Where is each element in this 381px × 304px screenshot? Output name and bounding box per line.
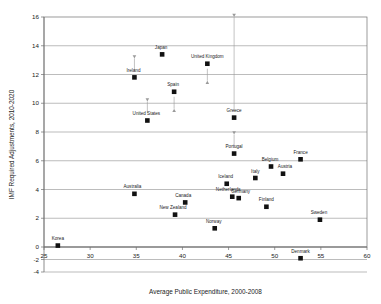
data-point-label: Belgium [262,157,279,162]
data-point[interactable]: Canada [175,193,192,205]
x-tick-label-35: 35 [133,252,140,259]
data-point-marker [264,204,269,209]
y-tick-label-16: 16 [32,13,39,20]
data-point[interactable]: United Kingdom [191,54,224,66]
data-point-label: Portugal [226,144,243,149]
data-point-marker [298,256,303,261]
data-point-marker [224,181,229,186]
data-point-marker [232,115,237,120]
data-point[interactable]: Finland [259,197,275,209]
y-tick-label--2: -2 [33,256,39,263]
chart-canvas: -4-202468101214162530354045505560KoreaAu… [0,0,381,304]
data-point-label: France [293,150,308,155]
data-point-label: Korea [52,236,65,241]
x-tick-label-55: 55 [317,252,324,259]
x-tick-label-60: 60 [364,252,371,259]
data-point-label: Iceland [218,174,233,179]
scatter-chart: -4-202468101214162530354045505560KoreaAu… [0,0,381,304]
y-tick-label-14: 14 [32,42,39,49]
data-point-label: Italy [251,169,260,174]
y-tick-label-0: 0 [36,243,40,250]
data-point[interactable]: Spain [167,82,179,94]
y-tick-label-8: 8 [36,128,40,135]
data-point-label: Sweden [311,210,328,215]
x-tick-label-30: 30 [87,252,94,259]
y-tick-label-2: 2 [36,214,40,221]
data-point-label: Austria [278,164,293,169]
data-point-marker [253,176,258,181]
data-point[interactable]: France [293,150,308,162]
data-point-marker [132,75,137,80]
data-point-marker [56,243,61,248]
data-point-marker [205,61,210,66]
data-point[interactable]: Norway [206,219,222,231]
y-tick-label-10: 10 [32,99,39,106]
uncertainty-arrow-down [172,97,176,112]
data-point-label: Canada [175,193,192,198]
data-point-label: Finland [259,197,275,202]
y-tick-label-6: 6 [36,157,40,164]
data-point-label: Germany [231,189,251,194]
data-point[interactable]: Australia [124,184,142,196]
data-point-marker [160,52,165,57]
data-point-marker [172,89,177,94]
data-point-label: Norway [206,219,222,224]
data-point[interactable]: Belgium [262,157,279,169]
data-point[interactable]: Austria [278,164,293,176]
data-point-label: Denmark [291,249,310,254]
data-point[interactable]: Ireland [126,68,140,80]
data-point[interactable]: New Zealand [160,205,188,217]
data-point-marker [281,171,286,176]
data-point[interactable]: Sweden [311,210,328,222]
data-point-label: United States [133,111,161,116]
data-point-marker [212,226,217,231]
data-point-marker [236,196,241,201]
data-point-marker [173,212,178,217]
data-point-label: Australia [124,184,142,189]
data-point[interactable]: Greece [227,108,243,120]
x-tick-label-50: 50 [271,252,278,259]
data-point-marker [232,151,237,156]
data-point-label: United Kingdom [191,54,224,59]
data-point-label: Spain [167,82,179,87]
x-tick-label-40: 40 [179,252,186,259]
data-point[interactable]: Iceland [218,174,233,186]
y-tick-label-12: 12 [32,71,39,78]
data-point-label: New Zealand [160,205,188,210]
y-axis-title: IMF Required Adjustments, 2010-2020 [8,89,16,199]
data-point[interactable]: Italy [251,169,260,181]
data-point-marker [132,192,137,197]
data-point-label: Ireland [126,68,140,73]
data-point-marker [183,200,188,205]
data-point-marker [318,217,323,222]
data-point[interactable]: Korea [52,236,65,248]
data-point-marker [230,194,235,199]
data-point-marker [145,118,150,123]
uncertainty-arrow-up [232,14,236,112]
uncertainty-arrow-down [206,69,210,84]
data-point[interactable]: Denmark [291,249,310,261]
data-point[interactable]: Japan [155,45,168,57]
data-point-label: Greece [227,108,243,113]
data-point-label: Japan [155,45,168,50]
y-tick-label--4: -4 [33,268,39,275]
y-tick-label-4: 4 [36,186,40,193]
x-axis-title: Average Public Expenditure, 2000-2008 [149,288,262,296]
data-point-marker [269,164,274,169]
data-point-marker [298,157,303,162]
x-tick-label-45: 45 [225,252,232,259]
x-tick-label-25: 25 [41,252,48,259]
data-point[interactable]: Portugal [226,144,243,156]
data-point[interactable]: United States [133,111,161,123]
